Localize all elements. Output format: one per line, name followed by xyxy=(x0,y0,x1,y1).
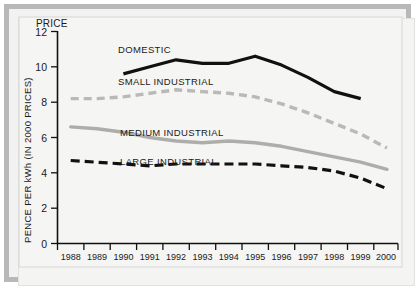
y-tick-label: 10 xyxy=(35,61,47,73)
series-label-small-industrial: SMALL INDUSTRIAL xyxy=(118,76,214,87)
x-tick-label: 1996 xyxy=(271,252,291,262)
x-tick-label: 1988 xyxy=(61,252,81,262)
x-tick-label: 1992 xyxy=(166,252,186,262)
chart-canvas: PRICE PENCE PER kWh (IN 2000 PRICES) 12 … xyxy=(0,0,415,286)
x-tick-label: 1999 xyxy=(351,252,371,262)
x-tick-label: 2000 xyxy=(376,252,396,262)
y-tick-label: 2 xyxy=(41,202,47,214)
y-tick-label: 4 xyxy=(41,167,47,179)
y-tick-label: 12 xyxy=(35,26,47,38)
series-label-medium-industrial: MEDIUM INDUSTRIAL xyxy=(120,127,224,138)
x-tick-label: 1994 xyxy=(219,252,239,262)
x-tick-label: 1995 xyxy=(245,252,265,262)
x-tick-label: 1993 xyxy=(192,252,212,262)
y-tick-label: 8 xyxy=(41,96,47,108)
y-axis-title: PENCE PER kWh (IN 2000 PRICES) xyxy=(22,77,33,243)
series-label-large-industrial: LARGE INDUSTRIAL xyxy=(120,156,217,167)
series-label-domestic: DOMESTIC xyxy=(118,44,171,55)
y-tick-label: 6 xyxy=(41,132,47,144)
x-tick-label: 1991 xyxy=(140,252,160,262)
x-tick-label: 1989 xyxy=(87,252,107,262)
x-tick-label: 1998 xyxy=(324,252,344,262)
x-tick-label: 1990 xyxy=(113,252,133,262)
y-tick-label: 0 xyxy=(41,238,47,250)
x-tick-label: 1997 xyxy=(298,252,318,262)
chart-figure: PRICE PENCE PER kWh (IN 2000 PRICES) 12 … xyxy=(0,0,415,286)
